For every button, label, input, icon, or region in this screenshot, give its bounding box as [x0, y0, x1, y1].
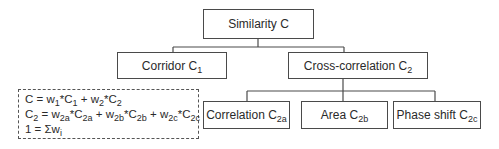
node-correlation: Correlation C2a	[203, 101, 290, 129]
node-area-label: Area C2b	[321, 108, 368, 122]
node-phase-shift: Phase shift C2c	[393, 101, 481, 129]
node-phase-shift-label: Phase shift C2c	[397, 108, 478, 122]
node-corridor: Corridor C1	[117, 52, 227, 79]
node-area: Area C2b	[301, 101, 388, 129]
formula-box: C = w1*C1 + w2*C2 C2 = w2a*C2a + w2b*C2b…	[18, 89, 199, 139]
formula-line-3: 1 = Σwi	[25, 122, 198, 137]
node-similarity-label: Similarity C	[228, 17, 289, 31]
node-correlation-label: Correlation C2a	[206, 108, 287, 122]
formula-line-2: C2 = w2a*C2a + w2b*C2b + w2c*C2c	[25, 107, 198, 122]
node-corridor-label: Corridor C1	[142, 59, 202, 73]
formula-line-1: C = w1*C1 + w2*C2	[25, 92, 198, 107]
node-cross-correlation: Cross-correlation C2	[288, 52, 428, 79]
node-similarity: Similarity C	[203, 9, 314, 39]
node-cross-correlation-label: Cross-correlation C2	[304, 59, 412, 73]
